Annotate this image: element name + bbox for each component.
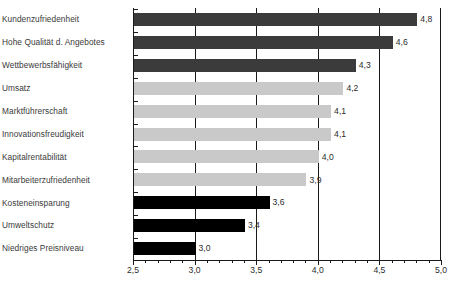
y-axis-tick [134, 55, 138, 56]
bar [134, 150, 319, 163]
x-axis-minor-tick [244, 260, 245, 263]
bar-value-label: 4,2 [346, 84, 358, 93]
bar-value-label: 3,0 [199, 244, 211, 253]
bar [134, 36, 393, 49]
category-label: Kosteneinsparung [2, 199, 127, 207]
horizontal-bar-chart: KundenzufriedenheitHohe Qualität d. Ange… [0, 0, 458, 283]
bar-value-label: 3,6 [273, 198, 285, 207]
y-axis-tick [134, 124, 138, 125]
x-axis-minor-tick [392, 260, 393, 263]
category-label: Niedriges Preisniveau [2, 244, 127, 252]
y-axis-tick [134, 215, 138, 216]
category-label: Wettbewerbsfähigkeit [2, 61, 127, 69]
bar-value-label: 4,8 [420, 15, 432, 24]
category-label: Umsatz [2, 84, 127, 92]
plot-area: 4,84,64,34,24,14,14,03,93,63,43,0 [133, 8, 441, 260]
bar [134, 59, 356, 72]
x-axis-minor-tick [404, 260, 405, 263]
x-axis-minor-tick [342, 260, 343, 263]
bar [134, 219, 245, 232]
x-axis-minor-tick [232, 260, 233, 263]
x-axis-tick-label: 3,5 [250, 266, 262, 275]
x-axis-tick-label: 4,0 [312, 266, 324, 275]
x-axis-minor-tick [281, 260, 282, 263]
y-axis-tick [134, 9, 138, 10]
x-axis-line [133, 260, 441, 261]
x-axis-tick-label: 5,0 [435, 266, 447, 275]
bar-value-label: 3,9 [309, 176, 321, 185]
bar-value-label: 4,3 [359, 61, 371, 70]
y-axis-tick [134, 192, 138, 193]
bar [134, 105, 331, 118]
x-axis-minor-tick [182, 260, 183, 263]
x-axis-minor-tick [145, 260, 146, 263]
y-axis-tick [134, 32, 138, 33]
x-axis-tick-label: 4,5 [373, 266, 385, 275]
bar-value-label: 4,0 [322, 153, 334, 162]
bar [134, 82, 343, 95]
bar [134, 13, 417, 26]
x-axis-minor-tick [429, 260, 430, 263]
x-axis-minor-tick [367, 260, 368, 263]
category-label: Marktführerschaft [2, 107, 127, 115]
category-label: Innovationsfreudigkeit [2, 130, 127, 138]
category-label: Hohe Qualität d. Angebotes [2, 38, 127, 46]
x-axis-minor-tick [269, 260, 270, 263]
y-axis-tick [134, 238, 138, 239]
x-axis-minor-tick [355, 260, 356, 263]
category-axis-labels: KundenzufriedenheitHohe Qualität d. Ange… [0, 0, 133, 283]
x-axis-minor-tick [416, 260, 417, 263]
x-axis: 2,53,03,54,04,55,0 [133, 260, 441, 283]
y-axis-tick [134, 169, 138, 170]
plot-right-border [440, 8, 441, 260]
category-label: Umweltschutz [2, 221, 127, 229]
x-axis-minor-tick [158, 260, 159, 263]
category-label: Kundenzufriedenheit [2, 15, 127, 23]
x-axis-minor-tick [293, 260, 294, 263]
y-axis-tick [134, 101, 138, 102]
y-axis-tick [134, 78, 138, 79]
bar-value-label: 4,6 [396, 38, 408, 47]
bar [134, 196, 270, 209]
x-axis-minor-tick [305, 260, 306, 263]
bar-value-label: 4,1 [334, 130, 346, 139]
category-label: Kapitalrentabilität [2, 153, 127, 161]
x-axis-tick-label: 3,0 [189, 266, 201, 275]
category-label: Mitarbeiterzufriedenheit [2, 176, 127, 184]
bar-value-label: 4,1 [334, 107, 346, 116]
bar-value-label: 3,4 [248, 221, 260, 230]
x-axis-minor-tick [170, 260, 171, 263]
x-axis-tick-label: 2,5 [127, 266, 139, 275]
bar [134, 173, 306, 186]
bar [134, 128, 331, 141]
y-axis-tick [134, 146, 138, 147]
x-axis-minor-tick [330, 260, 331, 263]
x-axis-minor-tick [219, 260, 220, 263]
x-axis-minor-tick [207, 260, 208, 263]
bar [134, 242, 196, 255]
